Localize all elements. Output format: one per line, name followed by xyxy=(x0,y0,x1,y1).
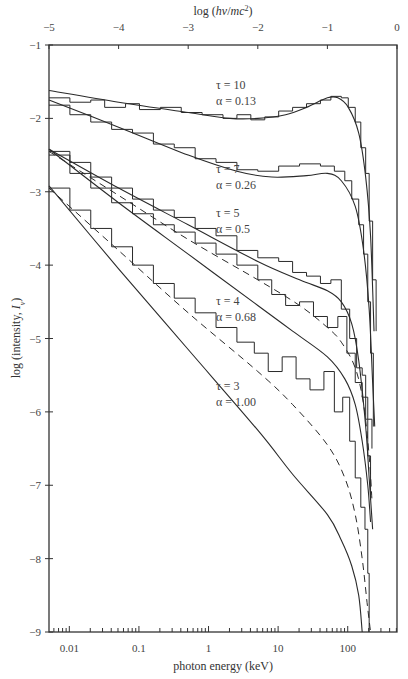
monte-carlo-histogram xyxy=(49,105,373,426)
alpha-label: α = 1.00 xyxy=(216,395,256,409)
model-curve-dashed xyxy=(49,151,372,500)
tau-label: τ = 7 xyxy=(216,162,240,176)
top-tick-label: 0 xyxy=(394,21,400,33)
tau-label: τ = 4 xyxy=(216,294,240,308)
model-curve xyxy=(49,149,371,522)
top-axis-title: log (hν/mc2) xyxy=(193,4,252,19)
bottom-tick-label: 0.01 xyxy=(60,642,79,654)
alpha-label: α = 0.68 xyxy=(216,310,256,324)
alpha-label: α = 0.5 xyxy=(216,222,250,236)
spectrum-chart: −5−4−3−2−10−1−2−3−4−5−6−7−8−90.010.11101… xyxy=(0,0,408,679)
y-tick-label: −3 xyxy=(29,186,41,198)
model-curve xyxy=(49,186,362,632)
y-tick-label: −5 xyxy=(29,333,41,345)
bottom-tick-label: 0.1 xyxy=(132,642,146,654)
bottom-tick-label: 10 xyxy=(273,642,285,654)
top-tick-label: −4 xyxy=(113,21,125,33)
model-curve xyxy=(49,149,373,529)
alpha-label: α = 0.13 xyxy=(216,94,256,108)
tau-label: τ = 3 xyxy=(216,379,240,393)
top-tick-label: −5 xyxy=(43,21,55,33)
bottom-tick-label: 1 xyxy=(206,642,212,654)
y-tick-label: −4 xyxy=(29,259,41,271)
model-curve xyxy=(49,90,374,331)
tau-label: τ = 5 xyxy=(216,206,240,220)
y-tick-label: −6 xyxy=(29,406,41,418)
monte-carlo-histogram xyxy=(49,188,369,632)
y-tick-label: −2 xyxy=(29,112,41,124)
monte-carlo-histogram xyxy=(49,155,372,449)
top-tick-label: −2 xyxy=(252,21,264,33)
bottom-tick-label: 100 xyxy=(339,642,356,654)
y-tick-label: −9 xyxy=(29,626,41,638)
y-axis-title: log (intensity, Iν) xyxy=(9,298,27,378)
monte-carlo-histogram xyxy=(49,151,371,500)
bottom-axis-title: photon energy (keV) xyxy=(173,659,273,673)
y-tick-label: −7 xyxy=(29,479,41,491)
plot-frame xyxy=(49,45,397,632)
top-tick-label: −3 xyxy=(182,21,194,33)
axes: −5−4−3−2−10−1−2−3−4−5−6−7−8−90.010.11101… xyxy=(29,21,400,654)
y-tick-label: −1 xyxy=(29,39,41,51)
tau-label: τ = 10 xyxy=(216,78,246,92)
monte-carlo-histogram xyxy=(49,96,376,331)
alpha-label: α = 0.26 xyxy=(216,178,256,192)
model-curve-dashed xyxy=(49,188,371,632)
series-layer xyxy=(49,90,376,632)
y-tick-label: −8 xyxy=(29,553,41,565)
annotations: τ = 10α = 0.13τ = 7α = 0.26τ = 5α = 0.5τ… xyxy=(216,78,256,409)
top-tick-label: −1 xyxy=(322,21,334,33)
